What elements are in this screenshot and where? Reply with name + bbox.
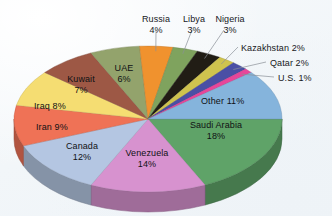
slice-label-kazakhstan-text: Kazakhstan 2% [241, 43, 305, 53]
slice-label-iraq-pct: 8% [53, 101, 66, 111]
slice-label-kazakhstan: Kazakhstan 2% [241, 43, 305, 54]
slice-label-uae-pct: 6% [104, 74, 144, 85]
slice-label-nigeria: Nigeria 3% [208, 14, 252, 35]
slice-label-nigeria-pct: 3% [208, 25, 252, 36]
slice-label-iraq-name: Iraq [34, 101, 50, 111]
slice-label-iran: Iran 9% [36, 122, 68, 133]
slice-label-us: U.S. 1% [278, 73, 312, 84]
slice-label-russia-name: Russia [142, 14, 170, 24]
slice-label-kuwait-name: Kuwait [67, 74, 95, 84]
slice-label-canada-pct: 12% [52, 152, 112, 163]
slice-label-us-text: U.S. 1% [278, 73, 312, 83]
slice-label-iran-name: Iran [36, 122, 52, 132]
slice-label-other-name: Other [201, 96, 224, 106]
slice-label-venezuela-name: Venezuela [126, 148, 169, 158]
pie-chart: Saudi Arabia 18% Venezuela 14% Canada 12… [0, 0, 332, 216]
slice-label-iran-pct: 9% [55, 122, 68, 132]
slice-label-canada-name: Canada [66, 141, 98, 151]
slice-label-uae: UAE 6% [104, 63, 144, 84]
slice-label-venezuela: Venezuela 14% [112, 148, 182, 169]
slice-label-kuwait-pct: 7% [57, 85, 105, 96]
slice-label-libya-pct: 3% [176, 25, 212, 36]
slice-label-other-pct: 11% [227, 96, 245, 106]
slice-label-iraq: Iraq 8% [34, 101, 66, 112]
slice-label-russia-pct: 4% [132, 25, 180, 36]
slice-label-libya-name: Libya [183, 14, 205, 24]
slice-label-canada: Canada 12% [52, 141, 112, 162]
slice-label-russia: Russia 4% [132, 14, 180, 35]
slice-label-uae-name: UAE [115, 63, 134, 73]
slice-label-saudi-arabia: Saudi Arabia 18% [178, 120, 254, 141]
slice-label-qatar: Qatar 2% [270, 58, 309, 69]
slice-label-nigeria-name: Nigeria [215, 14, 244, 24]
slice-label-venezuela-pct: 14% [112, 159, 182, 170]
slice-label-kuwait: Kuwait 7% [57, 74, 105, 95]
slice-label-qatar-text: Qatar 2% [270, 58, 309, 68]
slice-label-saudi-arabia-name: Saudi Arabia [190, 120, 242, 130]
slice-label-saudi-arabia-pct: 18% [178, 131, 254, 142]
slice-label-libya: Libya 3% [176, 14, 212, 35]
slice-label-other: Other 11% [201, 96, 244, 107]
